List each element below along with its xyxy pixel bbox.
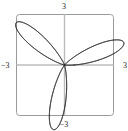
rose-curve (16, 22, 124, 130)
polar-rose-figure: 3 −3 3 −3 (0, 0, 128, 131)
plot-canvas (0, 0, 128, 131)
